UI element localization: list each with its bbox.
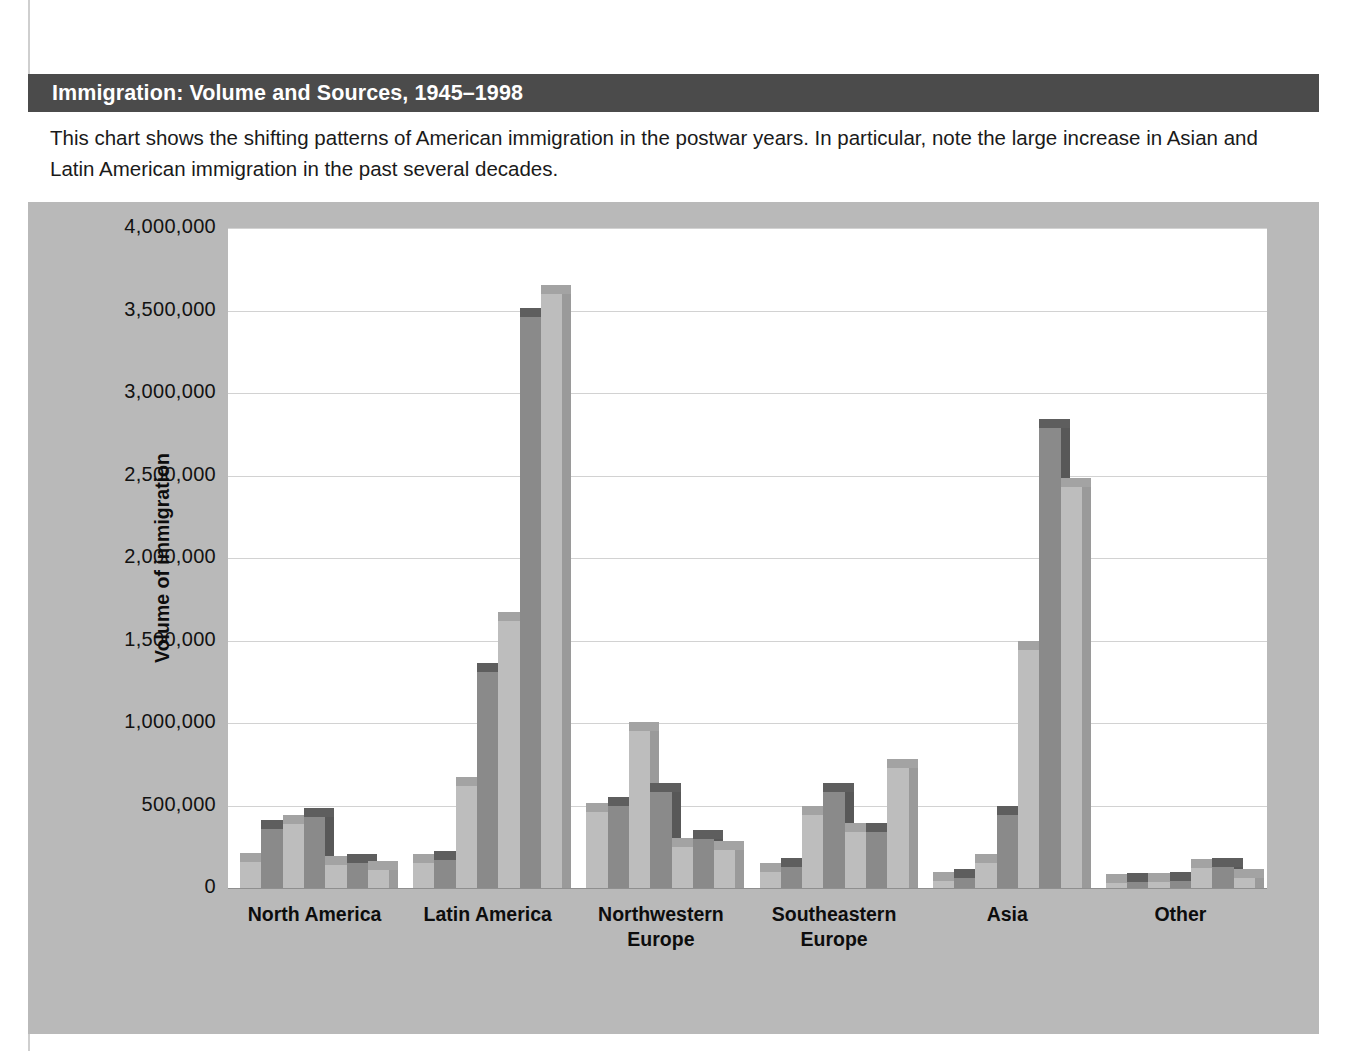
bar-face <box>413 863 434 888</box>
x-axis-category-label-line: Southeastern <box>748 902 921 927</box>
bar <box>1212 867 1233 888</box>
bar-side <box>909 768 918 888</box>
bar <box>866 832 887 888</box>
figure-caption: This chart shows the shifting patterns o… <box>50 122 1298 184</box>
bar-face <box>541 294 562 888</box>
bar-face <box>629 731 650 888</box>
bar-face <box>1191 868 1212 888</box>
bar-face <box>866 832 887 888</box>
y-axis-tick-label: 500,000 <box>142 793 216 816</box>
bar <box>413 863 434 888</box>
bar <box>650 792 671 888</box>
bar <box>1148 882 1169 888</box>
bar <box>997 815 1018 888</box>
bar <box>954 878 975 888</box>
bar-face <box>261 829 282 888</box>
bar-face <box>1061 487 1082 888</box>
bar-side <box>562 294 571 888</box>
bar <box>672 847 693 888</box>
bar-face <box>760 872 781 889</box>
gridline <box>228 393 1267 394</box>
bar-face <box>520 317 541 888</box>
bar-side <box>1255 878 1264 888</box>
x-axis-category-label: SoutheasternEurope <box>748 902 921 952</box>
x-axis-category-label-line: Other <box>1094 902 1267 927</box>
bar-face <box>456 786 477 888</box>
bar-face <box>693 839 714 889</box>
bar-top <box>1212 858 1242 867</box>
gridline <box>228 476 1267 477</box>
bar-face <box>1039 428 1060 888</box>
bar-face <box>434 860 455 888</box>
bar <box>629 731 650 888</box>
bar <box>304 817 325 888</box>
bar-face <box>1127 882 1148 888</box>
gridline <box>228 641 1267 642</box>
bar <box>802 815 823 888</box>
bar <box>1061 487 1082 888</box>
bar <box>781 867 802 888</box>
x-axis-category-label-line: Latin America <box>401 902 574 927</box>
bar <box>714 850 735 888</box>
gridline <box>228 723 1267 724</box>
bar-face <box>954 878 975 888</box>
bar-side <box>389 870 398 888</box>
bar-top <box>714 841 744 850</box>
bar <box>1018 650 1039 888</box>
bar <box>261 829 282 888</box>
bar-face <box>240 862 261 888</box>
bar-face <box>1148 882 1169 888</box>
bar <box>693 839 714 889</box>
bar-face <box>887 768 908 888</box>
bar-face <box>304 817 325 888</box>
bar-top <box>629 722 659 731</box>
bar <box>347 863 368 888</box>
bar <box>975 863 996 888</box>
y-axis-tick-label: 1,000,000 <box>124 710 216 733</box>
bar-top <box>823 783 853 792</box>
bar <box>456 786 477 888</box>
x-axis-category-label: NorthwesternEurope <box>574 902 747 952</box>
bar <box>325 865 346 888</box>
bar <box>283 824 304 888</box>
bar-face <box>650 792 671 888</box>
y-axis-label: Volume of immigration <box>151 453 174 663</box>
bar-face <box>1170 881 1191 888</box>
bar-face <box>1106 883 1127 888</box>
bar <box>240 862 261 888</box>
bar-face <box>347 863 368 888</box>
bar-top <box>1234 869 1264 878</box>
bar <box>498 621 519 888</box>
figure-title-bar: Immigration: Volume and Sources, 1945–19… <box>28 74 1319 112</box>
figure-container: Immigration: Volume and Sources, 1945–19… <box>28 74 1319 1034</box>
plot-area: Volume of immigration <box>228 228 1267 888</box>
bar-face <box>997 815 1018 888</box>
bar-face <box>781 867 802 888</box>
bar <box>845 832 866 888</box>
figure-caption-box: This chart shows the shifting patterns o… <box>28 112 1319 190</box>
bar <box>933 881 954 888</box>
bar <box>1234 878 1255 888</box>
bar-face <box>714 850 735 888</box>
bar-side <box>735 850 744 888</box>
bar <box>368 870 389 888</box>
bar <box>760 872 781 889</box>
x-axis-category-label-line: Asia <box>921 902 1094 927</box>
bar-face <box>823 792 844 888</box>
bar <box>434 860 455 888</box>
bar-face <box>477 672 498 888</box>
bar <box>1039 428 1060 888</box>
gridline <box>228 228 1267 229</box>
x-axis-category-label: Asia <box>921 902 1094 927</box>
bar <box>1106 883 1127 888</box>
bar-top <box>693 830 723 839</box>
gridline <box>228 558 1267 559</box>
y-axis-tick-label: 3,000,000 <box>124 380 216 403</box>
bar <box>541 294 562 888</box>
chart-panel: 4,000,0003,500,0003,000,0002,500,0002,00… <box>28 202 1319 1034</box>
bar <box>823 792 844 888</box>
x-axis-category-label-line: North America <box>228 902 401 927</box>
bar-face <box>368 870 389 888</box>
bar-side <box>1082 487 1091 888</box>
bar <box>520 317 541 888</box>
